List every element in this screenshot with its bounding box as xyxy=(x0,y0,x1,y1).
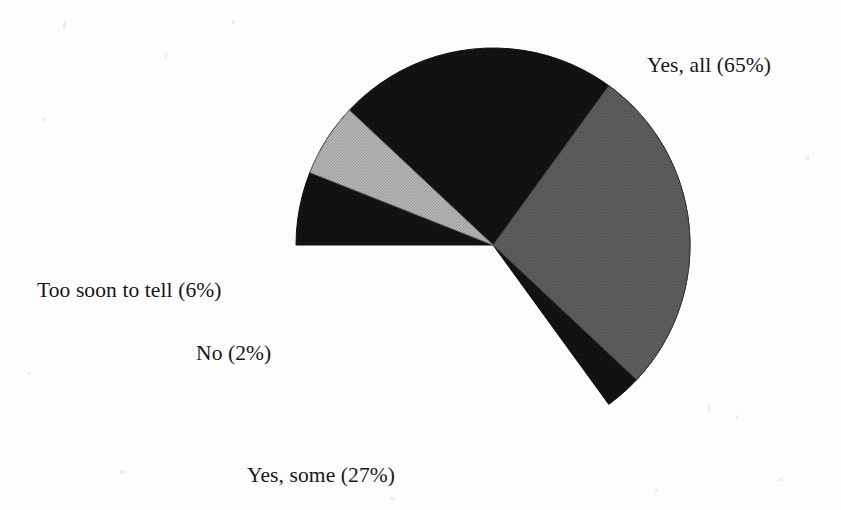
pie-chart-figure: Yes, all (65%) Too soon to tell (6%) No … xyxy=(0,0,841,510)
pie-label-too-soon-to-tell: Too soon to tell (6%) xyxy=(37,280,222,302)
pie-label-yes-some: Yes, some (27%) xyxy=(247,465,395,487)
pie-slices-group xyxy=(296,48,690,404)
pie-label-no: No (2%) xyxy=(196,343,271,365)
pie-label-yes-all: Yes, all (65%) xyxy=(647,55,771,77)
